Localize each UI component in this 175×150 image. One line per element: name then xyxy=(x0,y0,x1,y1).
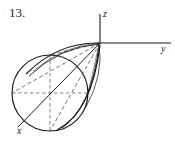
problem-number-label: 13. xyxy=(9,6,25,19)
axis-label-z: z xyxy=(103,9,107,19)
axis-label-y: y xyxy=(161,44,165,54)
axis-label-x: x xyxy=(17,126,21,136)
cone-rim-far-hint xyxy=(88,44,99,93)
cone-silhouette-upper-third xyxy=(33,43,99,71)
cone-diagram-svg xyxy=(0,0,175,150)
cone-silhouette-group xyxy=(26,43,100,130)
figure-container: 13. z y x xyxy=(0,0,175,150)
